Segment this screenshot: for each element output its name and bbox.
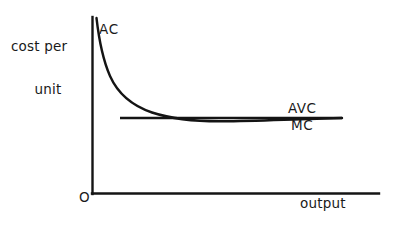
avc-line-label: AVC [288,101,317,115]
mc-line-label: MC [291,118,313,132]
y-axis-label-line2: unit [11,82,85,96]
x-axis-label: output [300,196,346,210]
y-axis-label-line1: cost per [11,39,85,53]
cost-curve-figure: cost per unit output O AC AVC MC [0,0,396,226]
y-axis-label: cost per unit [11,11,85,124]
origin-label: O [79,190,90,204]
ac-curve-label: AC [99,22,119,36]
